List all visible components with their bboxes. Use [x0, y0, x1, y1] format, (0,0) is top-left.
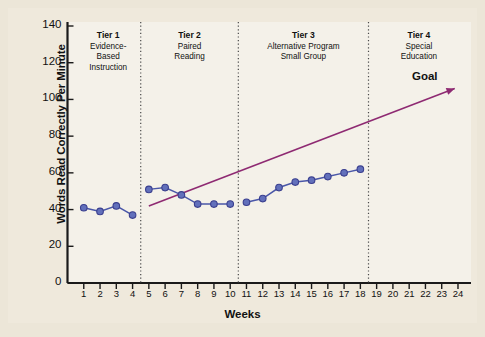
data-point: [162, 184, 169, 191]
chart-vector-layer: [0, 0, 485, 337]
data-point: [146, 186, 153, 193]
data-point: [341, 170, 348, 177]
goal-arrowhead: [446, 88, 455, 95]
data-point: [227, 201, 234, 208]
data-line-series-0: [84, 206, 133, 215]
data-point: [178, 192, 185, 199]
chart-screenshot: Words Read Correctly Per Minute Weeks Go…: [0, 0, 485, 337]
data-point: [325, 173, 332, 180]
data-point: [97, 208, 104, 215]
data-point: [259, 195, 266, 202]
data-point: [211, 201, 218, 208]
data-point: [292, 179, 299, 186]
data-point: [308, 177, 315, 184]
data-point: [243, 199, 250, 206]
data-point: [113, 203, 120, 210]
data-point: [129, 212, 136, 219]
data-point: [357, 166, 364, 173]
data-point: [276, 184, 283, 191]
goal-line: [149, 88, 455, 205]
data-point: [80, 204, 87, 211]
data-point: [194, 201, 201, 208]
